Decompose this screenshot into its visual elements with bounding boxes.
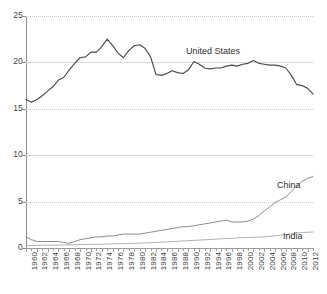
x-tick-label-1970: 1970 xyxy=(84,252,93,270)
series-label-united-states: United States xyxy=(186,46,240,56)
x-tick-label-2012: 2012 xyxy=(311,252,320,270)
x-tick-label-1972: 1972 xyxy=(94,252,103,270)
y-tick-label-20: 20 xyxy=(1,57,23,66)
x-tick-label-1996: 1996 xyxy=(224,252,233,270)
x-tick-label-1990: 1990 xyxy=(192,252,201,270)
x-tick-label-1980: 1980 xyxy=(138,252,147,270)
series-lines xyxy=(26,16,313,248)
x-tickmark-1991 xyxy=(194,248,195,251)
series-label-india: India xyxy=(283,231,303,241)
x-tickmark-1963 xyxy=(42,248,43,251)
x-tick-label-2004: 2004 xyxy=(268,252,277,270)
x-tickmark-1997 xyxy=(226,248,227,251)
x-tick-label-1988: 1988 xyxy=(181,252,190,270)
x-axis-tick-labels: 1960196219641966196819701972197419761978… xyxy=(0,252,327,294)
y-axis-tick-labels: 0510152025 xyxy=(0,0,23,294)
series-line-china xyxy=(26,177,313,244)
plot-area xyxy=(26,16,313,248)
x-tickmark-1973 xyxy=(96,248,97,251)
x-tickmark-2003 xyxy=(259,248,260,251)
x-tickmark-2007 xyxy=(281,248,282,251)
x-tickmark-1985 xyxy=(161,248,162,251)
line-chart: 0510152025 United States China India 196… xyxy=(0,0,327,294)
y-tick-label-10: 10 xyxy=(1,150,23,159)
x-tick-label-1998: 1998 xyxy=(235,252,244,270)
x-tickmark-1989 xyxy=(183,248,184,251)
x-tickmark-1961 xyxy=(31,248,32,251)
x-tick-label-1984: 1984 xyxy=(159,252,168,270)
x-tick-label-1960: 1960 xyxy=(30,252,39,270)
x-tickmark-1983 xyxy=(151,248,152,251)
y-tick-label-15: 15 xyxy=(1,104,23,113)
x-tickmark-1999 xyxy=(237,248,238,251)
x-tick-label-1966: 1966 xyxy=(62,252,71,270)
series-label-china: China xyxy=(277,180,301,190)
x-tick-label-2010: 2010 xyxy=(300,252,309,270)
x-tick-label-1964: 1964 xyxy=(51,252,60,270)
x-tickmark-1975 xyxy=(107,248,108,251)
y-tick-label-0: 0 xyxy=(1,243,23,252)
x-tick-label-2008: 2008 xyxy=(289,252,298,270)
x-tickmark-2013 xyxy=(313,248,314,251)
x-tick-label-2002: 2002 xyxy=(257,252,266,270)
x-tick-label-1978: 1978 xyxy=(127,252,136,270)
x-tick-label-1994: 1994 xyxy=(214,252,223,270)
x-tickmark-1987 xyxy=(172,248,173,251)
series-line-united-states xyxy=(26,39,313,102)
x-tick-label-2000: 2000 xyxy=(246,252,255,270)
x-tickmark-2005 xyxy=(270,248,271,251)
x-tickmark-1969 xyxy=(75,248,76,251)
x-tickmark-1993 xyxy=(205,248,206,251)
x-tick-label-1976: 1976 xyxy=(116,252,125,270)
x-tickmark-1981 xyxy=(140,248,141,251)
x-tickmark-2009 xyxy=(291,248,292,251)
x-tick-label-1986: 1986 xyxy=(170,252,179,270)
x-tickmark-1971 xyxy=(86,248,87,251)
x-tickmark-1995 xyxy=(216,248,217,251)
y-tick-label-25: 25 xyxy=(1,11,23,20)
x-tick-label-2006: 2006 xyxy=(279,252,288,270)
x-tickmark-2001 xyxy=(248,248,249,251)
x-tick-label-1968: 1968 xyxy=(73,252,82,270)
x-tick-label-1982: 1982 xyxy=(149,252,158,270)
x-tickmark-1965 xyxy=(53,248,54,251)
x-tick-label-1974: 1974 xyxy=(105,252,114,270)
x-tick-label-1992: 1992 xyxy=(203,252,212,270)
x-tickmark-1977 xyxy=(118,248,119,251)
y-tick-label-5: 5 xyxy=(1,197,23,206)
x-tickmark-1967 xyxy=(64,248,65,251)
x-tick-label-1962: 1962 xyxy=(40,252,49,270)
x-tickmark-2011 xyxy=(302,248,303,251)
x-tickmark-1979 xyxy=(129,248,130,251)
